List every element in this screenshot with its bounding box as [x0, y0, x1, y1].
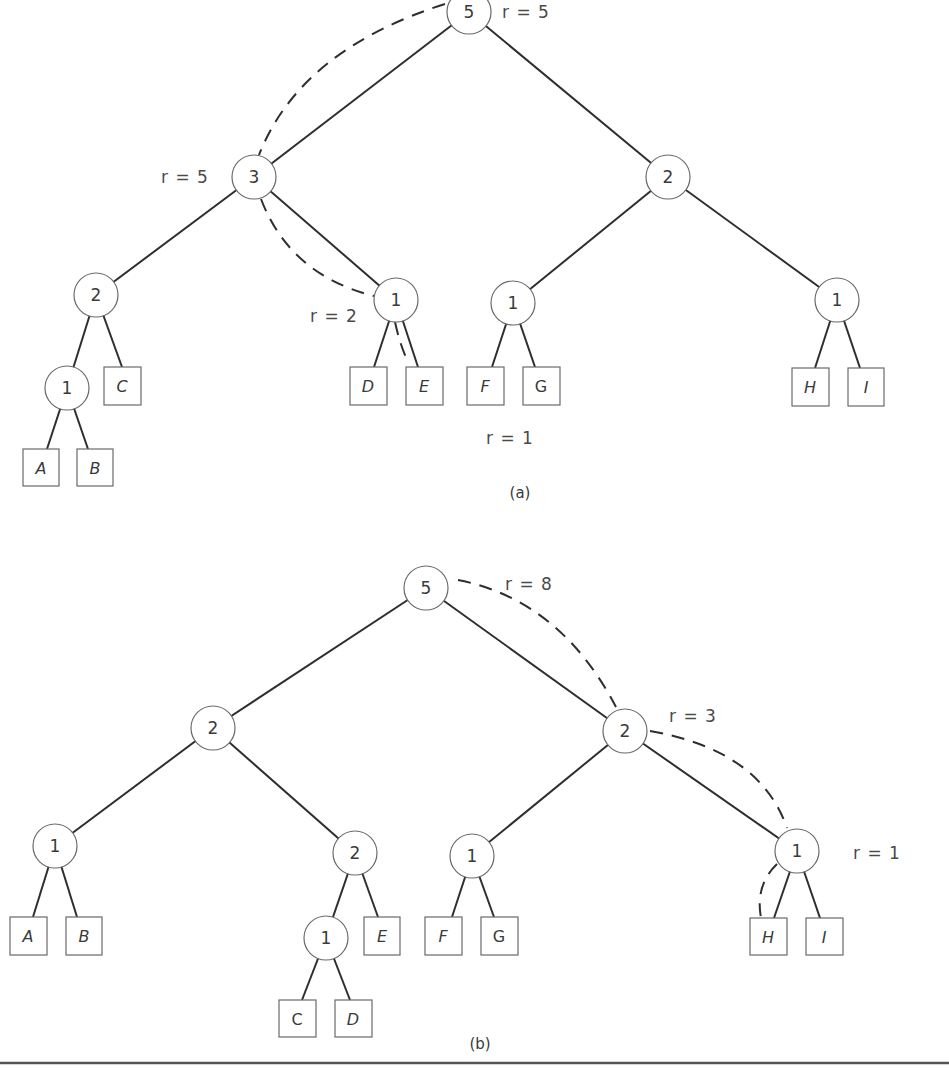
figure-b: 5 2 1 2 1 2 1 1	[10, 566, 901, 1053]
rank-label-b-rr: r = 1	[853, 843, 901, 863]
tree-node: 2	[74, 273, 118, 317]
figure-a: 5 3 2 1 1 2 1 1	[23, 0, 884, 502]
tree-node: 1	[815, 278, 859, 322]
leaf-node: A	[10, 917, 47, 955]
leaf-b-D: D	[347, 1010, 359, 1029]
leaf-a-E: E	[419, 377, 430, 396]
edge-a-l-lr	[254, 177, 396, 300]
node-a-l-label: 3	[249, 167, 260, 187]
leaf-b-F: F	[438, 927, 448, 946]
node-a-lll-label: 1	[62, 378, 73, 398]
node-a-r-label: 2	[663, 167, 674, 187]
tree-node: 1	[450, 834, 494, 878]
tree-node: 2	[603, 709, 647, 753]
leaf-b-G: G	[493, 927, 505, 946]
leftist-tree-diagram: 5 3 2 1 1 2 1 1	[0, 0, 949, 1073]
rank-label-b-r: r = 3	[669, 706, 717, 726]
dashed-path-a-root-to-l	[259, 4, 445, 155]
dashed-path-b-r-to-rr	[650, 731, 787, 828]
leaf-node: B	[66, 917, 102, 955]
figure-b-caption: (b)	[469, 1035, 490, 1053]
leaf-a-G: G	[535, 377, 547, 396]
node-a-rl-label: 1	[508, 293, 519, 313]
leaf-a-F: F	[480, 377, 490, 396]
leaf-node: I	[806, 918, 843, 955]
tree-node: 2	[333, 831, 377, 875]
figure-a-caption: (a)	[510, 484, 531, 502]
node-b-lr-label: 2	[350, 843, 361, 863]
leaf-node: G	[523, 367, 560, 405]
node-a-rr-label: 1	[832, 290, 843, 310]
tree-node: 5	[447, 0, 491, 34]
leaf-b-A: A	[22, 927, 34, 946]
node-b-rr-label: 1	[792, 841, 803, 861]
leaf-a-D: D	[362, 377, 374, 396]
tree-node: 1	[304, 916, 348, 960]
node-a-lr-label: 1	[391, 290, 402, 310]
edge-b-root-l	[213, 588, 426, 728]
edge-b-r-rl	[472, 731, 625, 856]
leaf-a-I: I	[864, 378, 869, 397]
rank-label-a-below: r = 1	[486, 428, 534, 448]
tree-node: 1	[374, 278, 418, 322]
leaf-node: D	[335, 1000, 372, 1037]
leaf-b-I: I	[822, 928, 827, 947]
tree-node: 3	[232, 155, 276, 199]
tree-node: 5	[404, 566, 448, 610]
tree-node: 2	[646, 155, 690, 199]
tree-node: 1	[33, 824, 77, 868]
node-b-l-label: 2	[208, 718, 219, 738]
edge-a-l-ll	[96, 177, 254, 295]
node-b-rl-label: 1	[467, 846, 478, 866]
tree-node: 1	[45, 366, 89, 410]
leaf-node: B	[77, 449, 113, 486]
node-b-lrl-label: 1	[321, 928, 332, 948]
edge-a-root-l	[254, 12, 469, 177]
node-b-ll-label: 1	[50, 836, 61, 856]
leaf-a-B: B	[90, 459, 101, 478]
node-b-r-label: 2	[620, 721, 631, 741]
dashed-path-b-rr-to-h	[760, 864, 777, 918]
leaf-node: F	[467, 367, 504, 405]
edge-b-l-ll	[55, 728, 213, 846]
tree-node: 1	[775, 829, 819, 873]
leaf-node: G	[481, 917, 518, 955]
leaf-node: D	[350, 367, 387, 405]
tree-node: 1	[491, 281, 535, 325]
leaf-node: C	[104, 367, 141, 405]
leaf-node: E	[406, 367, 443, 405]
leaf-a-C: C	[116, 377, 128, 396]
node-b-root-label: 5	[421, 578, 432, 598]
edge-b-l-lr	[213, 728, 355, 853]
leaf-node: I	[848, 368, 884, 406]
leaf-node: C	[279, 1000, 316, 1037]
leaf-b-C: C	[291, 1010, 302, 1029]
leaf-a-H: H	[804, 378, 816, 397]
edge-a-root-r	[469, 12, 668, 177]
tree-node: 2	[191, 706, 235, 750]
edge-a-r-rl	[513, 177, 668, 303]
rank-label-a-l: r = 5	[161, 167, 209, 187]
edge-a-r-rr	[668, 177, 837, 300]
leaf-b-H: H	[762, 928, 774, 947]
node-a-ll-label: 2	[91, 285, 102, 305]
edge-b-r-rr	[625, 731, 797, 851]
leaf-b-E: E	[377, 927, 388, 946]
leaf-b-B: B	[79, 927, 90, 946]
node-a-root-label: 5	[464, 2, 475, 22]
leaf-node: H	[750, 918, 787, 955]
leaf-a-A: A	[35, 459, 47, 478]
leaf-node: E	[364, 917, 400, 955]
rank-label-b-root: r = 8	[505, 574, 553, 594]
rank-label-a-lr: r = 2	[310, 306, 358, 326]
leaf-node: A	[23, 449, 59, 486]
dashed-path-a-l-to-lr	[261, 199, 374, 296]
dashed-path-b-root-to-r	[458, 580, 616, 707]
rank-label-a-root: r = 5	[502, 2, 550, 22]
leaf-node: H	[792, 368, 829, 406]
leaf-node: F	[425, 917, 462, 955]
edge-b-root-r	[426, 588, 625, 731]
figure-a-edges	[47, 12, 860, 449]
